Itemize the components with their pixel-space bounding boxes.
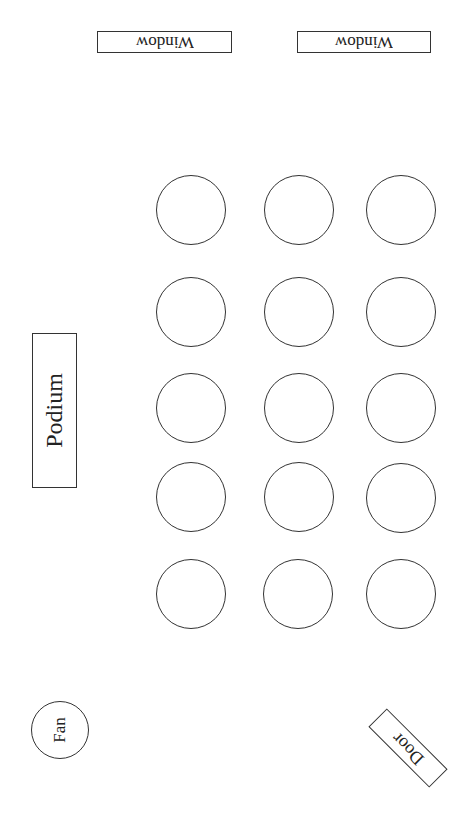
fan-label: Fan	[50, 717, 70, 743]
window-left: Window	[97, 31, 232, 53]
table-r4-c3	[366, 463, 436, 533]
table-r5-c1	[156, 559, 226, 629]
table-r3-c2	[264, 373, 334, 443]
table-r2-c1	[156, 277, 226, 347]
table-r3-c3	[366, 373, 436, 443]
table-r1-c2	[264, 175, 334, 245]
table-r1-c3	[366, 175, 436, 245]
table-r2-c3	[366, 277, 436, 347]
window-right: Window	[297, 31, 431, 53]
podium: Podium	[32, 333, 77, 488]
table-r3-c1	[156, 373, 226, 443]
window-right-label: Window	[335, 32, 393, 52]
door-label: Door	[387, 727, 428, 768]
table-r1-c1	[156, 175, 226, 245]
door: Door	[368, 708, 447, 787]
table-r4-c2	[264, 462, 334, 532]
table-r5-c3	[366, 559, 436, 629]
table-r4-c1	[156, 462, 226, 532]
table-r5-c2	[263, 559, 333, 629]
window-left-label: Window	[136, 32, 194, 52]
table-r2-c2	[264, 277, 334, 347]
fan: Fan	[31, 701, 89, 759]
podium-label: Podium	[41, 373, 68, 448]
